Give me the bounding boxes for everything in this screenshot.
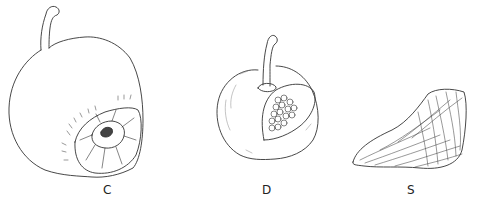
figure-s-seed <box>353 89 466 168</box>
botanical-illustration <box>0 0 480 203</box>
figure-d-fruit-section <box>217 35 318 159</box>
figure-c-fruit <box>9 6 143 177</box>
figure-label-s: S <box>407 183 415 197</box>
figure-label-d: D <box>262 183 271 197</box>
figure-label-c: C <box>103 183 111 197</box>
